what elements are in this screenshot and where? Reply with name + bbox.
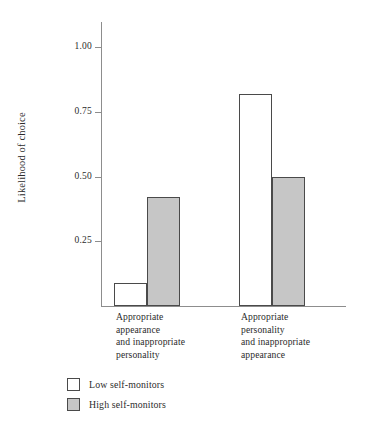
category-label-1: Appropriate appearance and inappropriate…: [116, 311, 236, 361]
legend-label: Low self-monitors: [89, 379, 164, 390]
bar-low-self-monitors-group-2: [239, 94, 272, 306]
bar-high-self-monitors-group-2: [272, 177, 305, 307]
bar-chart-figure: Likelihood of choice 1.000.750.500.25 Ap…: [0, 0, 366, 435]
y-axis-line: [101, 22, 102, 307]
y-tick-label: 0.25: [48, 235, 92, 245]
legend: Low self-monitorsHigh self-monitors: [67, 374, 166, 414]
bar-low-self-monitors-group-1: [114, 283, 147, 306]
y-tick-label: 0.75: [48, 106, 92, 116]
y-tick-label: 0.50: [48, 171, 92, 181]
legend-item-low-self-monitors: Low self-monitors: [67, 374, 166, 394]
bar-high-self-monitors-group-1: [147, 197, 180, 306]
category-label-2: Appropriate personality and inappropriat…: [241, 311, 361, 361]
legend-swatch-icon: [67, 398, 80, 411]
x-axis-line: [101, 306, 346, 307]
y-axis-title: Likelihood of choice: [16, 73, 27, 243]
y-tick-mark: [95, 177, 102, 178]
y-tick-mark: [95, 47, 102, 48]
y-tick-label: 1.00: [48, 41, 92, 51]
y-tick-mark: [95, 112, 102, 113]
legend-item-high-self-monitors: High self-monitors: [67, 394, 166, 414]
legend-label: High self-monitors: [89, 399, 166, 410]
y-tick-mark: [95, 241, 102, 242]
legend-swatch-icon: [67, 378, 80, 391]
